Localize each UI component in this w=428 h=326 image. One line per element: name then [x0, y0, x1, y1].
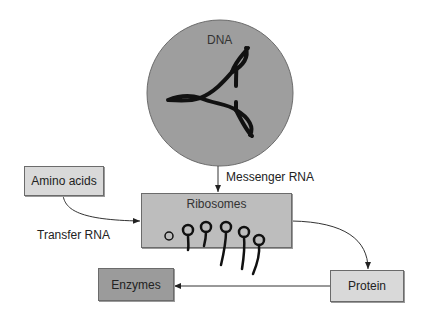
transfer-rna-label: Transfer RNA	[37, 228, 110, 242]
protein-label: Protein	[348, 279, 386, 293]
ribosomes-to-protein-arrow	[292, 221, 368, 269]
enzymes-label: Enzymes	[111, 278, 160, 292]
protein-synthesis-diagram: DNA Amino acids Ribosomes Protein Enzyme…	[0, 0, 428, 326]
ribosomes-box: Ribosomes	[141, 193, 292, 248]
enzymes-box: Enzymes	[98, 268, 174, 301]
ribosome-trna-icons	[142, 194, 293, 249]
dna-label: DNA	[207, 33, 232, 47]
transfer-rna-arrow	[63, 195, 140, 221]
messenger-rna-label: Messenger RNA	[226, 170, 314, 184]
protein-box: Protein	[330, 270, 404, 302]
amino-acids-label: Amino acids	[31, 174, 96, 188]
amino-acids-box: Amino acids	[24, 166, 104, 196]
